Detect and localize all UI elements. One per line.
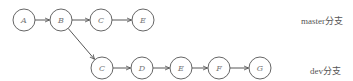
nodes-layer: ABCECDEFG	[13, 9, 271, 79]
commit-label: A	[20, 16, 27, 25]
commit-node-m-A: A	[13, 9, 35, 31]
commit-node-d-G: G	[249, 57, 271, 79]
commit-label: C	[99, 64, 105, 73]
commit-node-m-E: E	[132, 9, 154, 31]
edge-m-B-to-d-C	[68, 28, 94, 59]
commit-label: C	[98, 16, 104, 25]
commit-node-d-F: F	[208, 57, 230, 79]
branch-graph: ABCECDEFG	[0, 0, 353, 81]
commit-label: E	[177, 64, 184, 73]
commit-label: D	[138, 64, 146, 73]
commit-node-d-E: E	[170, 57, 192, 79]
commit-node-m-C: C	[90, 9, 112, 31]
commit-label: E	[139, 16, 146, 25]
commit-node-d-C: C	[91, 57, 113, 79]
branch-label-master: master分支	[301, 14, 343, 27]
commit-label: G	[257, 64, 264, 73]
commit-label: F	[215, 64, 222, 73]
commit-label: B	[57, 16, 64, 25]
commit-node-d-D: D	[131, 57, 153, 79]
commit-node-m-B: B	[50, 9, 72, 31]
branch-label-dev: dev分支	[310, 64, 341, 77]
